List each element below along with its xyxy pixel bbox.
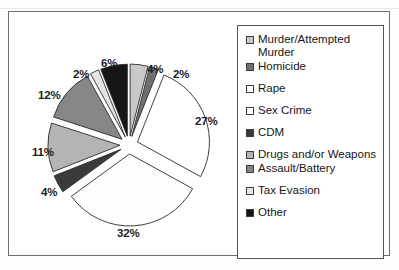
slice-label-other: 6% xyxy=(101,58,117,70)
legend-item: Assault/Battery xyxy=(246,162,383,175)
scan-artifact-line xyxy=(0,8,399,9)
legend-item: Other xyxy=(246,206,383,219)
legend-swatch-icon xyxy=(246,129,254,137)
legend-label: Homicide xyxy=(258,60,306,73)
pie-slices xyxy=(48,64,209,226)
legend-label: Tax Evasion xyxy=(258,184,320,197)
pie-svg xyxy=(9,12,241,255)
legend-swatch-icon xyxy=(246,107,254,115)
legend-label: Other xyxy=(258,206,287,219)
legend-label: CDM xyxy=(258,126,284,139)
legend-list: Murder/Attempted MurderHomicideRapeSex C… xyxy=(246,33,383,220)
slice-label-drugs: 11% xyxy=(32,147,54,159)
legend-item: Rape xyxy=(246,82,383,95)
chart-frame: 4% 2% 27% 32% 4% 11% 12% 2% 6% Murder/At… xyxy=(8,11,390,256)
legend-label: Drugs and/or Weapons xyxy=(258,148,376,161)
legend-label: Murder/Attempted Murder xyxy=(258,33,383,59)
legend-swatch-icon xyxy=(246,187,254,195)
slice-label-murder: 4% xyxy=(147,64,163,76)
slice-label-tax-evasion: 2% xyxy=(73,69,89,81)
legend-label: Sex Crime xyxy=(258,104,312,117)
legend: Murder/Attempted MurderHomicideRapeSex C… xyxy=(237,25,384,259)
legend-item: Tax Evasion xyxy=(246,184,383,197)
legend-swatch-icon xyxy=(246,36,254,44)
legend-swatch-icon xyxy=(246,85,254,93)
pie-plot-area: 4% 2% 27% 32% 4% 11% 12% 2% 6% xyxy=(9,12,241,255)
legend-item: Sex Crime xyxy=(246,104,383,117)
slice-label-homicide: 2% xyxy=(173,69,189,81)
legend-swatch-icon xyxy=(246,151,254,159)
legend-swatch-icon xyxy=(246,209,254,217)
slice-label-cdm: 4% xyxy=(41,187,57,199)
legend-swatch-icon xyxy=(246,63,254,71)
slice-label-rape: 27% xyxy=(195,116,217,128)
legend-item: CDM xyxy=(246,126,383,139)
legend-swatch-icon xyxy=(246,165,254,173)
slice-label-assault: 12% xyxy=(38,90,60,102)
legend-label: Assault/Battery xyxy=(258,162,335,175)
legend-item: Homicide xyxy=(246,60,383,73)
pie-chart-screenshot: 4% 2% 27% 32% 4% 11% 12% 2% 6% Murder/At… xyxy=(0,0,399,270)
slice-label-sex-crime: 32% xyxy=(117,228,139,240)
legend-item: Drugs and/or Weapons xyxy=(246,148,383,161)
legend-label: Rape xyxy=(258,82,286,95)
legend-item: Murder/Attempted Murder xyxy=(246,33,383,59)
